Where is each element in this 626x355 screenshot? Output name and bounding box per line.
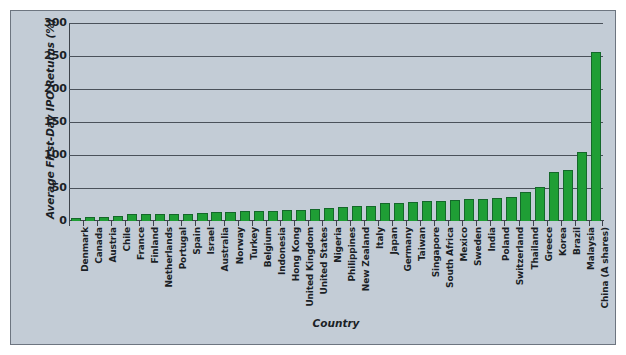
bar[interactable] bbox=[549, 172, 559, 222]
bar-slot bbox=[125, 23, 139, 221]
plot-area bbox=[69, 23, 603, 221]
bar-slot bbox=[224, 23, 238, 221]
x-tick-slot bbox=[490, 221, 504, 226]
bar[interactable] bbox=[254, 211, 264, 221]
x-axis-tick bbox=[308, 221, 309, 226]
bar-slot bbox=[533, 23, 547, 221]
bar-slot bbox=[589, 23, 603, 221]
bar[interactable] bbox=[422, 201, 432, 221]
bar[interactable] bbox=[310, 209, 320, 221]
bar[interactable] bbox=[155, 214, 165, 221]
x-axis-title: Country bbox=[69, 317, 603, 329]
bar[interactable] bbox=[591, 52, 601, 221]
x-axis-tick bbox=[83, 221, 84, 226]
x-tick-slot bbox=[209, 221, 223, 226]
bar-slot bbox=[167, 23, 181, 221]
bar[interactable] bbox=[352, 206, 362, 221]
x-tick-slot bbox=[434, 221, 448, 226]
x-tick-slot bbox=[111, 221, 125, 226]
bar-slot bbox=[575, 23, 589, 221]
x-tick-slot bbox=[448, 221, 462, 226]
x-label-slot: Germany bbox=[392, 227, 406, 317]
bar[interactable] bbox=[535, 187, 545, 221]
x-axis-ticks bbox=[69, 221, 603, 226]
x-axis-tick bbox=[181, 221, 182, 226]
x-tick-slot bbox=[462, 221, 476, 226]
bar[interactable] bbox=[268, 211, 278, 221]
bar[interactable] bbox=[225, 212, 235, 221]
bar-slot bbox=[476, 23, 490, 221]
bar[interactable] bbox=[520, 192, 530, 221]
y-axis-tick-label: 300 bbox=[33, 17, 67, 28]
bar-slot bbox=[308, 23, 322, 221]
bar-slot bbox=[111, 23, 125, 221]
x-axis-tick bbox=[476, 221, 477, 226]
bar[interactable] bbox=[366, 206, 376, 221]
x-label-slot: Chile bbox=[111, 227, 125, 317]
bar[interactable] bbox=[183, 214, 193, 221]
bar[interactable] bbox=[141, 214, 151, 221]
bar[interactable] bbox=[240, 211, 250, 221]
x-label-slot: Japan bbox=[378, 227, 392, 317]
x-label-slot: Belgium bbox=[252, 227, 266, 317]
x-label-slot: Greece bbox=[533, 227, 547, 317]
y-axis-tick-labels: 050100150200250300 bbox=[33, 11, 67, 346]
bar-slot bbox=[378, 23, 392, 221]
x-axis-tick bbox=[547, 221, 548, 226]
bar[interactable] bbox=[478, 199, 488, 221]
bar-slot bbox=[294, 23, 308, 221]
x-label-slot: Indonesia bbox=[266, 227, 280, 317]
bar[interactable] bbox=[464, 199, 474, 221]
x-label-slot: India bbox=[476, 227, 490, 317]
bar[interactable] bbox=[380, 203, 390, 221]
bar[interactable] bbox=[296, 210, 306, 221]
bar[interactable] bbox=[127, 214, 137, 221]
bar[interactable] bbox=[197, 213, 207, 221]
bar-slot bbox=[420, 23, 434, 221]
bar[interactable] bbox=[282, 210, 292, 221]
bar[interactable] bbox=[408, 202, 418, 221]
x-axis-tick bbox=[602, 221, 603, 226]
x-axis-tick bbox=[406, 221, 407, 226]
x-axis-tick bbox=[561, 221, 562, 226]
x-label-slot: Austria bbox=[97, 227, 111, 317]
bar[interactable] bbox=[338, 207, 348, 221]
bar[interactable] bbox=[436, 201, 446, 221]
bar[interactable] bbox=[563, 170, 573, 221]
x-label-slot: Italy bbox=[364, 227, 378, 317]
x-tick-slot bbox=[350, 221, 364, 226]
x-label-slot: South Africa bbox=[434, 227, 448, 317]
bar[interactable] bbox=[492, 198, 502, 221]
x-tick-slot bbox=[83, 221, 97, 226]
bar-series bbox=[69, 23, 603, 221]
x-tick-slot bbox=[575, 221, 589, 226]
bar-slot bbox=[153, 23, 167, 221]
x-tick-slot bbox=[238, 221, 252, 226]
bar[interactable] bbox=[324, 208, 334, 221]
bar[interactable] bbox=[577, 152, 587, 221]
bar[interactable] bbox=[394, 203, 404, 221]
x-axis-tick bbox=[111, 221, 112, 226]
ipo-returns-figure: Average First-Day IPO Returns (%) 050100… bbox=[0, 0, 626, 355]
x-axis-tick bbox=[167, 221, 168, 226]
bar-slot bbox=[406, 23, 420, 221]
bar-slot bbox=[547, 23, 561, 221]
bar-slot bbox=[490, 23, 504, 221]
bar[interactable] bbox=[450, 200, 460, 221]
x-axis-tick bbox=[533, 221, 534, 226]
bar-slot bbox=[462, 23, 476, 221]
x-label-slot: Singapore bbox=[420, 227, 434, 317]
bar[interactable] bbox=[211, 212, 221, 221]
x-axis-tick bbox=[504, 221, 505, 226]
bar-slot bbox=[238, 23, 252, 221]
x-label-slot: Mexico bbox=[448, 227, 462, 317]
x-label-slot: Netherlands bbox=[153, 227, 167, 317]
bar[interactable] bbox=[506, 197, 516, 221]
x-tick-slot bbox=[533, 221, 547, 226]
x-label-slot: Australia bbox=[209, 227, 223, 317]
x-axis-tick bbox=[490, 221, 491, 226]
x-tick-slot bbox=[589, 221, 603, 226]
bar[interactable] bbox=[169, 214, 179, 221]
x-tick-slot bbox=[561, 221, 575, 226]
x-tick-slot bbox=[519, 221, 533, 226]
